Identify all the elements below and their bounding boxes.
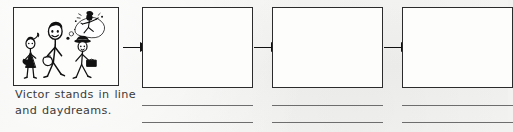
storyboard-panel-4[interactable] (402, 0, 513, 132)
illustration-victor-in-line-daydreaming (14, 8, 118, 85)
panel-4-rule-line-2[interactable] (402, 122, 513, 123)
panel-2-drawing-frame[interactable] (142, 7, 253, 88)
panel-4-drawing-frame[interactable] (402, 7, 513, 88)
panel-1-caption-line-2: and daydreams. (15, 103, 143, 119)
panel-1-caption-line-1: Victor stands in line (15, 87, 143, 103)
storyboard-panel-3[interactable] (272, 0, 383, 132)
panel-2-rule-line-1[interactable] (142, 105, 253, 106)
storyboard-panel-2[interactable] (142, 0, 253, 132)
panel-3-drawing-frame[interactable] (272, 7, 383, 88)
panel-3-rule-line-2[interactable] (272, 122, 383, 123)
panel-1-caption: Victor stands in line and daydreams. (15, 87, 143, 118)
storyboard-panel-1[interactable]: Victor stands in line and daydreams. (13, 0, 129, 132)
panel-3-rule-line-1[interactable] (272, 105, 383, 106)
panel-4-rule-line-1[interactable] (402, 105, 513, 106)
panel-1-illustration-frame[interactable] (13, 7, 119, 86)
panel-2-rule-line-2[interactable] (142, 122, 253, 123)
